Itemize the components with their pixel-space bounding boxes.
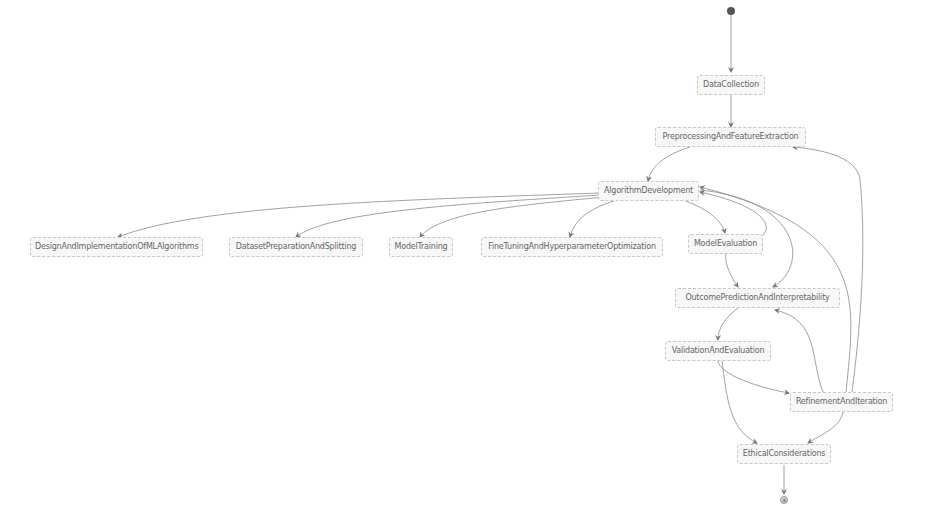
node-dataset-preparation[interactable]: DatasetPreparationAndSplitting [229,237,363,257]
node-design-and-implementation[interactable]: DesignAndImplementationOfMLAlgorithms [30,237,203,257]
edge-algodev-to-dataset [296,195,600,237]
node-model-training[interactable]: ModelTraining [389,237,453,257]
edge-refinement-to-preprocessing [793,147,863,392]
end-node-icon [780,496,788,504]
node-preprocessing-and-feature-extraction[interactable]: PreprocessingAndFeatureExtraction [655,127,806,147]
edge-modeleval-to-outcome [726,253,738,287]
edge-algodev-to-finetuning [570,199,620,237]
edge-algodev-to-modeleval [680,199,725,233]
edge-validation-to-ethical [722,361,757,443]
edge-refinement-to-outcome [775,310,823,392]
node-refinement-and-iteration[interactable]: RefinementAndIteration [790,392,893,412]
edge-algodev-to-training [420,197,605,237]
node-data-collection[interactable]: DataCollection [697,75,765,95]
edge-refinement-to-ethical [808,412,843,443]
node-algorithm-development[interactable]: AlgorithmDevelopment [598,181,699,201]
node-model-evaluation[interactable]: ModelEvaluation [688,234,763,254]
start-node-icon [727,7,735,15]
node-outcome-prediction[interactable]: OutcomePredictionAndInterpretability [675,288,840,308]
state-diagram-canvas: DataCollection PreprocessingAndFeatureEx… [0,0,925,532]
node-fine-tuning[interactable]: FineTuningAndHyperparameterOptimization [481,237,663,257]
node-ethical-considerations[interactable]: EthicalConsiderations [737,444,831,464]
edge-preprocessing-to-algorithm-development [648,147,690,181]
edge-outcome-to-validation [718,308,738,340]
edge-validation-to-refinement [718,361,789,393]
node-validation-and-evaluation[interactable]: ValidationAndEvaluation [665,341,771,361]
